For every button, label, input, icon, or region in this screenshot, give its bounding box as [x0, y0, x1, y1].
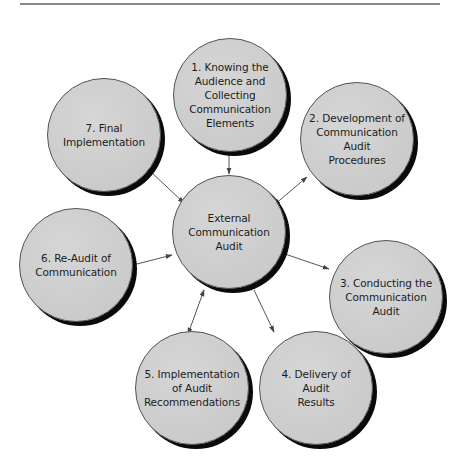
- step-3-label: 3. Conducting the Communication Audit: [329, 276, 443, 318]
- step-3-node: 3. Conducting the Communication Audit: [329, 240, 443, 354]
- step-6-label: 6. Re-Audit of Communication: [27, 251, 124, 279]
- step-7-label: 7. Final Implementation: [55, 121, 153, 149]
- step-5-label: 5. Implementation of Audit Recommendatio…: [136, 367, 248, 409]
- step-2-node: 2. Development of Communication Audit Pr…: [300, 82, 414, 196]
- center-node-external-communication-audit: External Communication Audit: [172, 175, 286, 289]
- step-4-label: 4. Delivery of Audit Results: [259, 367, 373, 409]
- arrow-6-to-center: [133, 255, 172, 265]
- step-6-node: 6. Re-Audit of Communication: [19, 208, 133, 322]
- step-1-label: 1. Knowing the Audience and Collecting C…: [181, 60, 278, 130]
- step-2-label: 2. Development of Communication Audit Pr…: [300, 111, 414, 167]
- arrow-7-to-center: [150, 171, 184, 203]
- step-1-node: 1. Knowing the Audience and Collecting C…: [173, 38, 287, 152]
- arrow-center-5-bidirectional: [188, 290, 204, 334]
- arrow-center-to-4: [254, 290, 274, 332]
- arrow-center-to-3: [285, 254, 329, 269]
- arrow-2-center-bidirectional: [274, 177, 307, 205]
- step-4-node: 4. Delivery of Audit Results: [259, 331, 373, 445]
- step-5-node: 5. Implementation of Audit Recommendatio…: [135, 331, 249, 445]
- audit-cycle-diagram: 1. Knowing the Audience and Collecting C…: [0, 0, 457, 460]
- center-label: External Communication Audit: [172, 211, 286, 253]
- step-7-node: 7. Final Implementation: [47, 78, 161, 192]
